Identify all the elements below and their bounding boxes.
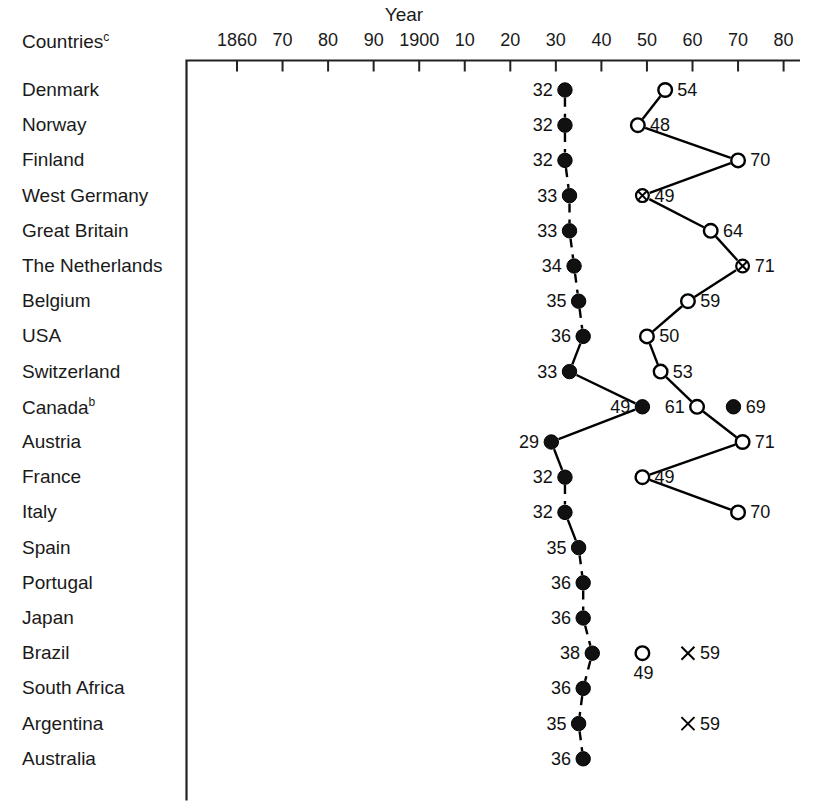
data-value-label: 36 [551,572,571,593]
data-value-label: 32 [533,467,553,488]
data-value-label: 35 [546,537,566,558]
data-value-label: 32 [533,150,553,171]
data-value-label: 35 [546,713,566,734]
data-value-label: 33 [537,220,557,241]
data-value-label: 59 [700,291,720,312]
data-value-label: 36 [551,326,571,347]
data-value-label: 69 [746,396,766,417]
data-value-label: 48 [650,115,670,136]
data-value-label: 70 [750,150,770,171]
data-value-label: 64 [723,220,743,241]
data-value-label: 49 [655,467,675,488]
data-value-label: 32 [533,115,553,136]
data-value-label: 33 [537,361,557,382]
data-value-label: 70 [750,502,770,523]
data-value-label: 33 [537,185,557,206]
data-value-label: 53 [673,361,693,382]
data-value-label: 49 [610,396,630,417]
data-value-label: 59 [700,713,720,734]
data-value-label: 50 [659,326,679,347]
data-value-label: 35 [546,291,566,312]
chart-root: Year Countriesc 186070809019001020304050… [0,0,828,810]
data-value-label: 61 [665,396,685,417]
data-value-label: 36 [551,678,571,699]
data-value-label: 71 [755,256,775,277]
data-value-label: 34 [542,256,562,277]
data-value-label: 36 [551,748,571,769]
data-value-label: 54 [677,80,697,101]
data-value-label: 49 [655,185,675,206]
data-value-label: 59 [700,643,720,664]
data-value-label: 29 [519,432,539,453]
data-value-label: 71 [755,432,775,453]
plot-area [0,0,828,810]
data-value-label: 38 [560,643,580,664]
data-value-label: 49 [633,663,653,684]
data-value-label: 32 [533,502,553,523]
data-value-label: 32 [533,80,553,101]
data-value-label: 36 [551,608,571,629]
